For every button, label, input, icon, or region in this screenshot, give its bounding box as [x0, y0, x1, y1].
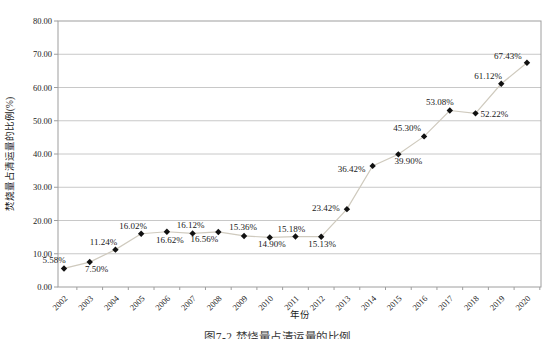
x-axis-tick-label: 2018	[462, 293, 481, 312]
line-chart: 0.0010.0020.0030.0040.0050.0060.0070.008…	[0, 0, 555, 339]
data-point-label: 16.02%	[119, 221, 147, 231]
data-point-marker	[292, 233, 298, 239]
x-axis-tick-label: 2002	[50, 293, 69, 312]
x-axis-tick-label: 2004	[102, 293, 122, 313]
x-axis-tick-label: 2006	[153, 293, 172, 312]
x-axis-tick-label: 2020	[513, 293, 532, 312]
x-axis-tick-label: 2010	[256, 293, 275, 312]
y-axis-tick-label: 30.00	[33, 182, 52, 192]
data-point-label: 5.58%	[42, 255, 66, 265]
x-axis-tick-label: 2012	[308, 293, 327, 312]
data-point-label: 16.12%	[177, 220, 205, 230]
data-point-label: 61.12%	[474, 71, 502, 81]
data-point-label: 39.90%	[394, 156, 422, 166]
data-point-marker	[61, 265, 67, 271]
y-axis-tick-label: 80.00	[33, 16, 52, 26]
data-point-label: 67.43%	[494, 51, 522, 61]
y-axis-tick-label: 50.00	[33, 116, 52, 126]
x-axis-title: 年份	[290, 309, 310, 320]
y-axis-tick-label: 70.00	[33, 49, 52, 59]
data-point-label: 14.90%	[258, 239, 286, 249]
x-axis-tick-label: 2015	[385, 293, 404, 312]
data-point-label: 36.42%	[338, 164, 366, 174]
x-axis-tick-label: 2019	[488, 293, 507, 312]
data-point-label: 45.30%	[393, 123, 421, 133]
data-point-marker	[369, 163, 375, 169]
x-axis-tick-label: 2007	[179, 293, 198, 312]
data-point-label: 52.22%	[481, 109, 509, 119]
y-axis-tick-label: 0.00	[37, 282, 52, 292]
x-axis-tick-label: 2013	[333, 293, 352, 312]
x-axis-tick-label: 2014	[359, 293, 379, 313]
y-axis-tick-label: 40.00	[33, 149, 52, 159]
data-point-label: 15.13%	[308, 239, 336, 249]
data-point-marker	[112, 246, 118, 252]
y-axis-tick-label: 60.00	[33, 83, 52, 93]
figure-caption: 图7-2 焚烧量占清运量的比例	[0, 331, 555, 339]
x-axis-tick-label: 2008	[205, 293, 224, 312]
x-axis-tick-label: 2009	[230, 293, 249, 312]
data-point-marker	[138, 231, 144, 237]
x-axis-tick-label: 2017	[436, 293, 455, 312]
x-axis-tick-label: 2003	[76, 293, 95, 312]
y-axis-title: 焚烧量占清运量的比例(%)	[4, 97, 16, 211]
data-point-label: 15.18%	[278, 224, 306, 234]
data-point-label: 23.42%	[312, 203, 340, 213]
x-axis-tick-label: 2005	[127, 293, 146, 312]
data-point-label: 15.36%	[229, 222, 257, 232]
y-axis-tick-label: 20.00	[33, 216, 52, 226]
chart-figure: 0.0010.0020.0030.0040.0050.0060.0070.008…	[0, 0, 555, 339]
data-point-label: 7.50%	[85, 264, 109, 274]
data-point-label: 53.08%	[426, 97, 454, 107]
data-point-label: 16.62%	[156, 235, 184, 245]
data-point-label: 11.24%	[90, 237, 118, 247]
x-axis-tick-label: 2016	[410, 293, 429, 312]
data-point-marker	[241, 233, 247, 239]
data-point-label: 16.56%	[190, 234, 218, 244]
